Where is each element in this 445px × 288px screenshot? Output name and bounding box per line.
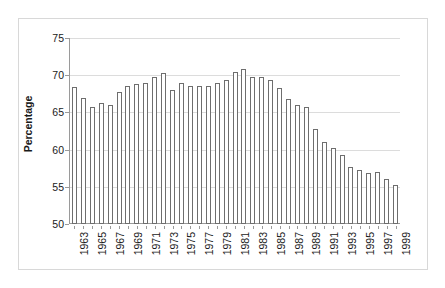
bar xyxy=(331,148,336,224)
x-tick-mark xyxy=(181,226,182,229)
bar xyxy=(72,87,77,224)
bar xyxy=(295,105,300,224)
bar xyxy=(348,167,353,224)
x-tick-mark xyxy=(306,226,307,229)
bar xyxy=(277,88,282,224)
x-tick-mark xyxy=(226,226,227,229)
x-tick-mark xyxy=(360,226,361,229)
x-tick-label: 1965 xyxy=(96,232,108,255)
bar xyxy=(224,80,229,224)
bar xyxy=(179,83,184,224)
bar xyxy=(313,129,318,224)
bar xyxy=(99,103,104,224)
y-tick-mark xyxy=(65,75,69,76)
x-tick-label: 1995 xyxy=(364,232,376,255)
bar xyxy=(322,142,327,224)
y-axis-title: Percentage xyxy=(22,74,34,174)
bar xyxy=(143,83,148,224)
x-tick-mark xyxy=(396,226,397,229)
bar xyxy=(340,155,345,224)
x-tick-mark xyxy=(333,226,334,229)
x-tick-mark xyxy=(74,226,75,229)
x-axis-tick-labels: 1963196519671969197119731975197719791981… xyxy=(70,226,400,270)
bar xyxy=(241,69,246,224)
x-tick-label: 1969 xyxy=(132,232,144,255)
x-tick-label: 1993 xyxy=(346,232,358,255)
bar xyxy=(197,86,202,224)
x-tick-label: 1975 xyxy=(185,232,197,255)
bar xyxy=(152,77,157,224)
bar xyxy=(286,99,291,224)
y-axis-tick-labels: 505560657075 xyxy=(42,38,64,224)
x-tick-mark xyxy=(387,226,388,229)
x-tick-mark xyxy=(280,226,281,229)
x-tick-mark xyxy=(155,226,156,229)
x-tick-mark xyxy=(190,226,191,229)
bar xyxy=(206,86,211,224)
x-tick-mark xyxy=(217,226,218,229)
x-tick-mark xyxy=(235,226,236,229)
x-tick-mark xyxy=(173,226,174,229)
bar xyxy=(304,107,309,224)
y-tick-mark xyxy=(65,150,69,151)
chart-figure: Percentage 505560657075 1963196519671969… xyxy=(0,0,445,288)
bar xyxy=(134,84,139,224)
x-tick-mark xyxy=(101,226,102,229)
bar xyxy=(108,105,113,224)
y-tick-label: 70 xyxy=(52,69,64,81)
bar xyxy=(233,72,238,224)
x-tick-mark xyxy=(369,226,370,229)
x-tick-mark xyxy=(297,226,298,229)
bar xyxy=(90,107,95,224)
bar xyxy=(81,98,86,224)
x-tick-mark xyxy=(289,226,290,229)
y-axis-line xyxy=(69,38,70,224)
x-tick-mark xyxy=(128,226,129,229)
y-tick-label: 50 xyxy=(52,218,64,230)
x-tick-label: 1971 xyxy=(150,232,162,255)
bar xyxy=(375,172,380,224)
x-tick-label: 1991 xyxy=(328,232,340,255)
bar xyxy=(215,83,220,224)
bar xyxy=(259,77,264,224)
x-tick-mark xyxy=(315,226,316,229)
x-tick-label: 1963 xyxy=(78,232,90,255)
y-tick-label: 55 xyxy=(52,181,64,193)
x-tick-label: 1983 xyxy=(257,232,269,255)
x-tick-label: 1979 xyxy=(221,232,233,255)
x-tick-mark xyxy=(342,226,343,229)
bar xyxy=(366,173,371,224)
x-tick-mark xyxy=(378,226,379,229)
plot-area xyxy=(70,38,400,224)
x-tick-mark xyxy=(199,226,200,229)
bar xyxy=(357,170,362,224)
x-tick-label: 1977 xyxy=(203,232,215,255)
y-tick-mark xyxy=(65,187,69,188)
bar xyxy=(250,77,255,224)
x-tick-mark xyxy=(119,226,120,229)
x-tick-label: 1985 xyxy=(275,232,287,255)
y-tick-mark xyxy=(65,38,69,39)
x-tick-mark xyxy=(253,226,254,229)
x-tick-mark xyxy=(92,226,93,229)
bar xyxy=(170,90,175,224)
y-tick-mark xyxy=(65,112,69,113)
gridline xyxy=(70,38,400,39)
x-tick-mark xyxy=(271,226,272,229)
y-tick-label: 65 xyxy=(52,106,64,118)
x-tick-mark xyxy=(137,226,138,229)
bar xyxy=(125,86,130,224)
x-tick-mark xyxy=(110,226,111,229)
x-tick-mark xyxy=(244,226,245,229)
x-tick-label: 1981 xyxy=(239,232,251,255)
x-tick-mark xyxy=(164,226,165,229)
x-tick-mark xyxy=(83,226,84,229)
x-tick-label: 1973 xyxy=(168,232,180,255)
x-tick-label: 1987 xyxy=(293,232,305,255)
x-tick-mark xyxy=(262,226,263,229)
x-tick-mark xyxy=(208,226,209,229)
x-tick-label: 1967 xyxy=(114,232,126,255)
bar xyxy=(268,80,273,224)
x-tick-mark xyxy=(146,226,147,229)
bar xyxy=(393,185,398,224)
